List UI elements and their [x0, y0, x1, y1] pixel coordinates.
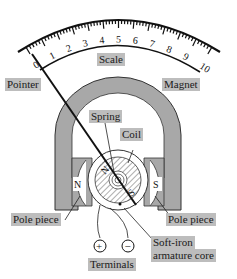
pole-piece-left-label: Pole piece [11, 213, 61, 226]
terminal-positive: + [96, 240, 102, 252]
pole-piece-right-label: Pole piece [166, 213, 216, 226]
svg-text:8: 8 [165, 43, 174, 55]
svg-text:1: 1 [48, 49, 57, 61]
scale-arc: 012345678910 [18, 20, 220, 75]
terminal-negative: − [125, 240, 131, 252]
scale-label: Scale [97, 53, 125, 66]
galvanometer-diagram: 012345678910 N S [0, 0, 237, 279]
core-label-line2: armature core [151, 249, 216, 262]
coil-label: Coil [120, 128, 143, 141]
svg-text:2: 2 [64, 42, 73, 54]
svg-text:7: 7 [149, 38, 157, 50]
terminals: + − [94, 240, 134, 252]
core-label-line1: Soft-iron [151, 236, 195, 249]
diagram-canvas: 012345678910 N S [0, 0, 237, 279]
svg-text:3: 3 [81, 37, 88, 49]
magnet-label: Magnet [162, 78, 200, 91]
svg-text:10: 10 [198, 60, 212, 75]
svg-text:4: 4 [99, 34, 105, 46]
pointer-label: Pointer [5, 78, 41, 91]
terminals-label: Terminals [88, 258, 136, 271]
pole-n-label: N [74, 179, 81, 190]
svg-text:6: 6 [132, 34, 138, 46]
svg-text:5: 5 [116, 33, 121, 44]
spring-label: Spring [89, 110, 122, 123]
pole-s-label: S [153, 179, 159, 190]
svg-text:9: 9 [181, 51, 190, 63]
